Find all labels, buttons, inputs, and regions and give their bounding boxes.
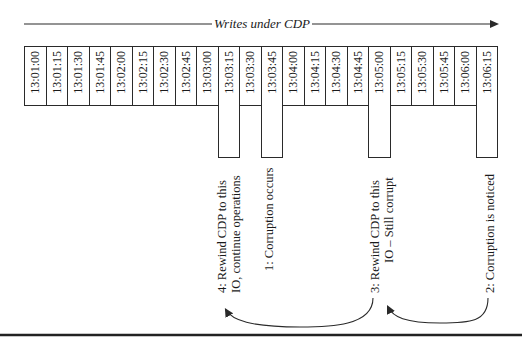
timeline-cell: 13:02:45 <box>175 46 198 106</box>
timeline-cell-time: 13:02:15 <box>136 51 150 94</box>
timeline-cell: 13:01:30 <box>67 46 90 106</box>
timeline-cell-time: 13:02:45 <box>179 51 193 94</box>
timeline-cell-time: 13:03:15 <box>222 51 236 94</box>
timeline-cell: 13:05:45 <box>433 46 456 106</box>
annotation-step-4-line1: 4: Rewind CDP to this <box>215 180 229 293</box>
timeline-cell: 13:02:00 <box>110 46 133 106</box>
timeline-cell-time: 13:04:00 <box>286 51 300 94</box>
timeline-cell: 13:05:30 <box>411 46 434 106</box>
timeline-cell-time: 13:02:30 <box>157 51 171 94</box>
timeline-cell: 13:04:30 <box>325 46 348 106</box>
annotation-step-1-line1: 1: Corruption occurs <box>262 168 276 271</box>
timeline-cell: 13:04:15 <box>304 46 327 106</box>
timeline-cell-time: 13:06:15 <box>480 51 494 94</box>
timeline-cell-time: 13:04:45 <box>351 51 365 94</box>
annotation-step-2-line1: 2: Corruption is noticed <box>483 174 497 293</box>
timeline-cell-time: 13:05:30 <box>415 51 429 94</box>
timeline-cell: 13:01:15 <box>46 46 69 106</box>
timeline-cell: 13:01:45 <box>89 46 112 106</box>
timeline-cell: 13:01:00 <box>24 46 47 106</box>
timeline-cell-time: 13:01:15 <box>50 51 64 94</box>
timeline-cell: 13:04:00 <box>282 46 305 106</box>
timeline-cell-time: 13:06:00 <box>458 51 472 94</box>
timeline-cell: 13:03:15 <box>218 46 241 158</box>
annotation-step-4-line2: IO, continue operations <box>229 175 243 293</box>
timeline-cell-time: 13:05:15 <box>394 51 408 94</box>
timeline-cell-time: 13:03:00 <box>200 51 214 94</box>
timeline-arrowhead-icon <box>490 20 499 28</box>
timeline-cell-time: 13:04:15 <box>308 51 322 94</box>
timeline-cell: 13:03:45 <box>261 46 284 158</box>
annotation-step-2: 2: Corruption is noticed <box>480 163 522 193</box>
timeline-cell-time: 13:05:00 <box>372 51 386 94</box>
timeline-cell-time: 13:05:45 <box>437 51 451 94</box>
timeline-cell: 13:04:45 <box>347 46 370 106</box>
timeline-cell: 13:06:15 <box>476 46 499 158</box>
annotation-step-3: 3: Rewind CDP to this IO – Still corrupt <box>365 163 495 193</box>
timeline-cell-time: 13:01:45 <box>93 51 107 94</box>
annotation-step-3-line2: IO – Still corrupt <box>382 177 396 263</box>
timeline-cell: 13:06:00 <box>454 46 477 106</box>
timeline-cell-time: 13:01:30 <box>71 51 85 94</box>
timeline-cell-time: 13:02:00 <box>114 51 128 94</box>
rewind-arrow-3-to-4 <box>226 298 373 327</box>
timeline-cell: 13:02:30 <box>153 46 176 106</box>
timeline-cell: 13:03:30 <box>239 46 262 106</box>
timeline-cell: 13:02:15 <box>132 46 155 106</box>
annotation-step-3-line1: 3: Rewind CDP to this <box>368 180 382 293</box>
timeline-cell: 13:05:00 <box>368 46 391 158</box>
timeline-cell-time: 13:03:45 <box>265 51 279 94</box>
timeline-cell-time: 13:04:30 <box>329 51 343 94</box>
diagram-title: Writes under CDP <box>212 15 312 33</box>
cdp-diagram: Writes under CDP 13:01:0013:01:1513:01:3… <box>0 0 522 340</box>
timeline-cell-time: 13:01:00 <box>28 51 42 94</box>
timeline-cell-time: 13:03:30 <box>243 51 257 94</box>
timeline-cell: 13:05:15 <box>390 46 413 106</box>
timeline-cell: 13:03:00 <box>196 46 219 106</box>
rewind-arrow-2-to-3 <box>388 298 488 323</box>
